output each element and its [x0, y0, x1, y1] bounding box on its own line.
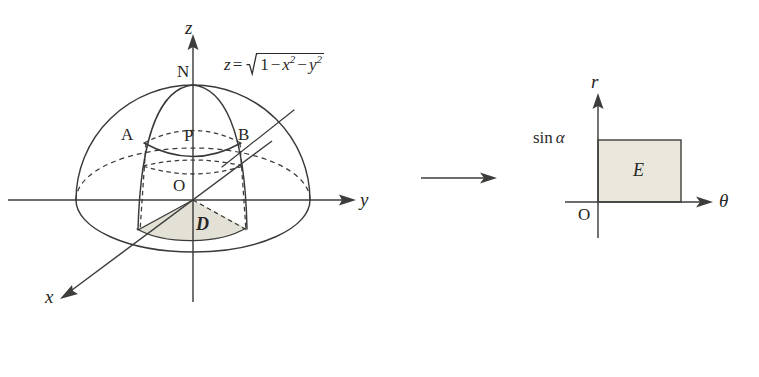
sin-function-name: sin [533, 128, 553, 147]
radicand-y-exponent: 2 [317, 53, 323, 65]
label-z-axis: z [185, 18, 192, 37]
equation-radicand: 1−x2−y2 [258, 53, 324, 75]
alpha-variable: α [553, 128, 565, 147]
radicand-minus-1: − [269, 55, 283, 74]
radical-sign-icon [246, 52, 258, 75]
label-origin-right: O [578, 206, 590, 223]
label-y-axis: y [360, 190, 368, 209]
mapping-arrow-group [421, 173, 497, 184]
label-region-d: D [196, 215, 209, 233]
surface-equation-label: z=1−x2−y2 [224, 52, 324, 75]
label-r-axis: r [591, 72, 598, 91]
label-north-pole: N [177, 63, 189, 80]
radicand-one: 1 [260, 55, 269, 74]
label-origin-left: O [173, 177, 185, 194]
equation-equals: = [231, 55, 245, 74]
radicand-y: y [309, 55, 317, 74]
label-point-a: A [121, 126, 133, 143]
equation-radical: 1−x2−y2 [246, 52, 324, 75]
label-region-e: E [633, 161, 644, 179]
figure-root: z=1−x2−y2 N A P B O D z y x r θ O sinα E [0, 0, 759, 377]
label-theta-axis: θ [719, 191, 728, 210]
radicand-x: x [282, 55, 290, 74]
label-x-axis: x [45, 287, 53, 306]
label-point-p: P [184, 127, 193, 144]
label-sin-alpha: sinα [533, 128, 565, 148]
equation-lhs: z [224, 55, 231, 74]
label-point-b: B [238, 126, 249, 143]
radicand-minus-2: − [295, 55, 309, 74]
figure-canvas [0, 0, 759, 377]
